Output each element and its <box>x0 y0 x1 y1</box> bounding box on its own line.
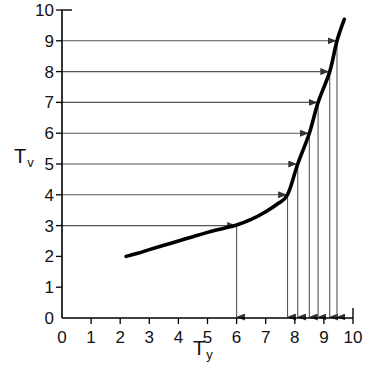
x-tick-label: 7 <box>261 329 270 346</box>
x-tick-label: 9 <box>319 329 328 346</box>
x-tick-label: 1 <box>86 329 95 346</box>
x-tick-label: 10 <box>344 329 363 346</box>
chart-container: Tv Ty 012345678910 012345678910 <box>0 0 370 373</box>
plot-area <box>0 0 370 373</box>
y-tick-label: 10 <box>22 2 54 19</box>
x-tick-label: 5 <box>203 329 212 346</box>
axis-group <box>56 10 353 324</box>
y-tick-label: 9 <box>22 32 54 49</box>
curve-group <box>126 19 344 256</box>
y-tick-label: 3 <box>22 217 54 234</box>
x-tick-label: 0 <box>57 329 66 346</box>
y-tick-label: 5 <box>22 156 54 173</box>
x-axis-title-sub: y <box>206 347 213 362</box>
x-tick-label: 3 <box>145 329 154 346</box>
x-tick-label: 2 <box>115 329 124 346</box>
x-tick-label: 4 <box>174 329 183 346</box>
data-curve <box>126 19 344 256</box>
y-tick-label: 4 <box>22 186 54 203</box>
y-tick-label: 6 <box>22 125 54 142</box>
x-tick-label: 8 <box>290 329 299 346</box>
y-tick-label: 2 <box>22 248 54 265</box>
y-tick-label: 0 <box>22 310 54 327</box>
y-tick-label: 8 <box>22 63 54 80</box>
x-tick-label: 6 <box>232 329 241 346</box>
y-tick-label: 7 <box>22 94 54 111</box>
y-tick-label: 1 <box>22 279 54 296</box>
vertical-arrow-group <box>237 41 337 317</box>
horizontal-arrow-group <box>62 41 336 226</box>
